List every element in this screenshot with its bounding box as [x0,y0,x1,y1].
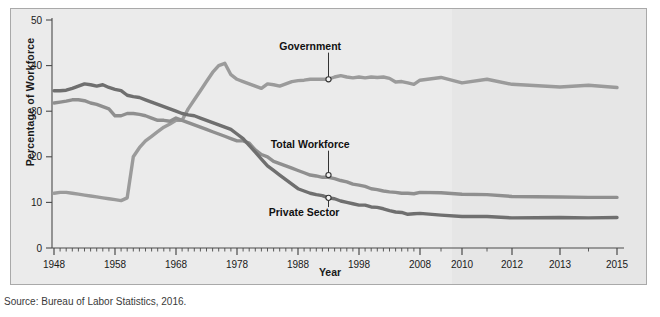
x-tick-label: 1958 [104,259,127,270]
x-tick-label: 2013 [549,259,572,270]
chart-figure: Percentage of Workforce Year 01020304050… [0,0,660,317]
x-tick-label: 1948 [43,259,66,270]
y-tick-label: 50 [31,15,43,26]
annotation-marker [326,195,331,200]
x-tick-label: 2012 [501,259,524,270]
x-tick-label: 2010 [451,259,474,270]
source-note: Source: Bureau of Labor Statistics, 2016… [4,296,186,307]
y-tick-label: 10 [31,197,43,208]
y-tick-label: 20 [31,151,43,162]
x-tick-label: 1998 [348,259,371,270]
annotation-marker [326,77,331,82]
x-tick-label: 2008 [409,259,432,270]
annotation-label-total-workforce: Total Workforce [271,138,350,150]
x-tick-label: 1968 [165,259,188,270]
annotation-label-private-sector: Private Sector [269,206,340,218]
chart-plot-area: 0102030405019481958196819781988199820082… [0,0,660,317]
y-tick-label: 0 [36,243,42,254]
y-tick-label: 30 [31,106,43,117]
annotation-label-government: Government [279,40,341,52]
x-tick-label: 1988 [287,259,310,270]
x-tick-label: 2015 [606,259,629,270]
x-tick-label: 1978 [226,259,249,270]
y-tick-label: 40 [31,60,43,71]
annotation-marker [326,172,331,177]
